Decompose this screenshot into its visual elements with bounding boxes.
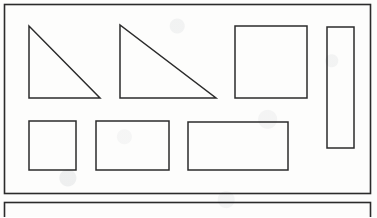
worksheet-canvas (0, 0, 377, 217)
shapes-diagram (0, 0, 377, 217)
lower-empty-panel (5, 203, 371, 218)
shape-right-triangle-1 (29, 26, 100, 98)
shape-square-large (235, 26, 307, 98)
shape-right-triangle-2 (120, 25, 216, 98)
shape-rectangle-medium (96, 121, 169, 170)
shape-tall-narrow-rectangle (327, 27, 354, 148)
shape-square-small (29, 121, 76, 170)
shape-rectangle-wide (188, 122, 288, 170)
